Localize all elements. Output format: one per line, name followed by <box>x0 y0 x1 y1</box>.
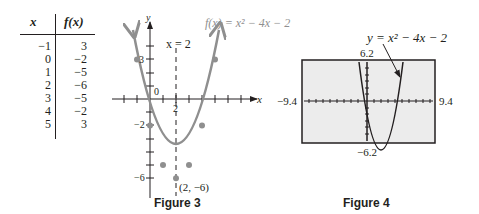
x-axis-label: x <box>257 93 262 105</box>
vertex-label: (2, −6) <box>179 181 209 193</box>
equation-label: y = x² − 4x − 2 <box>367 30 447 46</box>
y-tick-label-3: 3 <box>139 54 144 65</box>
origin-label: 0 <box>154 86 159 97</box>
axis-of-symmetry-label: x = 2 <box>166 37 191 52</box>
function-label: f(x) = x² − 4x − 2 <box>205 16 290 31</box>
xmax-label: 9.4 <box>439 95 453 107</box>
y-axis-label: y <box>146 12 150 23</box>
figure3-caption: Figure 3 <box>154 196 201 210</box>
ymax-label: 6.2 <box>360 47 374 59</box>
ymin-label: −6.2 <box>357 146 377 158</box>
xmin-label: −9.4 <box>277 95 297 107</box>
y-tick-label-neg2: −2 <box>134 119 145 130</box>
figure4-caption: Figure 4 <box>343 196 390 210</box>
x-tick-label-2: 2 <box>173 103 178 114</box>
y-tick-label-neg6: −6 <box>134 172 145 183</box>
